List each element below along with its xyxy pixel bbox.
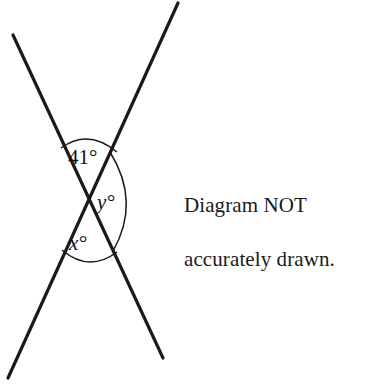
diagram-note-line-1: Diagram NOT (184, 192, 374, 219)
diagram-note-line-2: accurately drawn. (184, 246, 374, 273)
angle-label-y: y° (95, 190, 115, 214)
diagram-note: Diagram NOT accurately drawn. (184, 165, 374, 300)
angle-label-41: 41° (68, 145, 97, 169)
angle-label-x: x° (68, 231, 87, 255)
line-bottom-left-to-top-right (8, 3, 178, 378)
